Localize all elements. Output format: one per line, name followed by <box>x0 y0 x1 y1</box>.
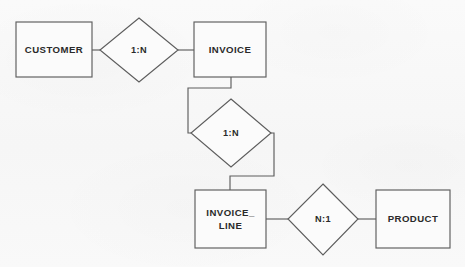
entity-customer[interactable]: CUSTOMER <box>16 22 92 77</box>
er-diagram-canvas: CUSTOMER INVOICE INVOICE_ LINE PRODUCT 1… <box>0 0 465 267</box>
entity-invoice-line-label-line1: INVOICE_ <box>206 207 255 218</box>
relationship-customer-invoice-label: 1:N <box>131 45 147 55</box>
entity-product-label: PRODUCT <box>388 213 439 224</box>
entity-invoice-line-label-line2: LINE <box>219 220 243 231</box>
er-diagram-svg: CUSTOMER INVOICE INVOICE_ LINE PRODUCT 1… <box>0 0 465 267</box>
entity-invoice-line[interactable]: INVOICE_ LINE <box>195 190 266 248</box>
entity-product[interactable]: PRODUCT <box>376 190 450 248</box>
entity-invoice[interactable]: INVOICE <box>194 22 266 77</box>
relationship-invoice-line-product[interactable]: N:1 <box>288 184 358 255</box>
relationship-customer-invoice[interactable]: 1:N <box>100 18 178 82</box>
entity-customer-label: CUSTOMER <box>25 44 83 55</box>
relationship-invoice-line-product-label: N:1 <box>315 214 331 224</box>
relationship-invoice-invoice-line[interactable]: 1:N <box>191 99 271 167</box>
entity-invoice-label: INVOICE <box>209 44 252 55</box>
relationship-invoice-invoice-line-label: 1:N <box>223 128 239 138</box>
